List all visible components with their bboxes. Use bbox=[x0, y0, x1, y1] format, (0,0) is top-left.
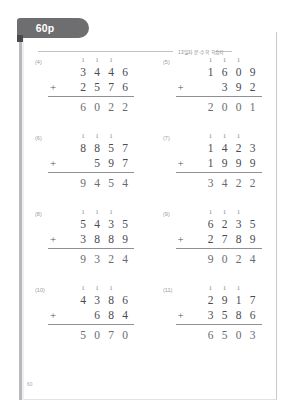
addition-column: 11103446+0257606022 bbox=[48, 56, 134, 115]
problem-cell[interactable]: (10)11104386+0068405070 bbox=[22, 284, 150, 360]
digit: 9 bbox=[218, 293, 232, 308]
answer-row[interactable]: 02001 bbox=[176, 97, 262, 115]
carry-row: 111 bbox=[176, 208, 262, 217]
answer-row[interactable]: 06022 bbox=[48, 97, 134, 115]
digit: 5 bbox=[218, 308, 232, 323]
answer-digit: 0 bbox=[232, 327, 246, 343]
answer-digit: 9 bbox=[76, 175, 90, 191]
addend-row-bottom: +02789 bbox=[176, 232, 262, 247]
carry-spacer bbox=[118, 132, 132, 141]
digit: 9 bbox=[246, 232, 260, 247]
digit-spacer: 0 bbox=[62, 99, 76, 115]
carry-spacer bbox=[62, 208, 76, 217]
running-head: 13일차 문·수학 학습지 bbox=[38, 47, 263, 56]
digit: 9 bbox=[218, 156, 232, 171]
carry-mark: 1 bbox=[90, 284, 104, 293]
answer-row[interactable]: 09024 bbox=[176, 249, 262, 267]
addition-column: 11108857+0059709454 bbox=[48, 132, 134, 191]
digit: 7 bbox=[246, 293, 260, 308]
digit: 3 bbox=[76, 232, 90, 247]
answer-digit: 3 bbox=[90, 251, 104, 267]
digit: 8 bbox=[104, 293, 118, 308]
problem-number: (10) bbox=[35, 287, 45, 293]
plus-operator: + bbox=[50, 80, 56, 95]
running-head-text: 13일차 문·수학 학습지 bbox=[178, 48, 224, 55]
digit-spacer: 0 bbox=[190, 156, 204, 171]
carry-mark: 1 bbox=[104, 208, 118, 217]
answer-row[interactable]: 03422 bbox=[176, 173, 262, 191]
problem-number: (7) bbox=[163, 135, 170, 141]
problem-cell[interactable]: (11)11102917+0358606503 bbox=[150, 284, 278, 360]
carry-spacer bbox=[190, 132, 204, 141]
problem-row: (4)11103446+0257606022(5)11101609+003920… bbox=[22, 56, 277, 132]
answer-row[interactable]: 06503 bbox=[176, 325, 262, 343]
page-tab-label: 60p bbox=[17, 18, 73, 38]
carry-mark: 1 bbox=[90, 132, 104, 141]
carry-row: 111 bbox=[176, 56, 262, 65]
problem-cell[interactable]: (6)11108857+0059709454 bbox=[22, 132, 150, 208]
digit-spacer: 0 bbox=[190, 80, 204, 95]
answer-row[interactable]: 09324 bbox=[48, 249, 134, 267]
carry-spacer bbox=[118, 208, 132, 217]
answer-digit: 1 bbox=[246, 99, 260, 115]
digit: 5 bbox=[118, 217, 132, 232]
problem-cell[interactable]: (8)11105435+0388909324 bbox=[22, 208, 150, 284]
problem-cell[interactable]: (7)11101423+0199903422 bbox=[150, 132, 278, 208]
answer-digit: 3 bbox=[204, 175, 218, 191]
addend-row-top: 01609 bbox=[176, 65, 262, 80]
answer-digit: 6 bbox=[204, 327, 218, 343]
digit: 6 bbox=[118, 293, 132, 308]
digit-spacer: 0 bbox=[62, 308, 76, 323]
digit: 7 bbox=[118, 156, 132, 171]
carry-spacer bbox=[190, 208, 204, 217]
addend-row-top: 05435 bbox=[48, 217, 134, 232]
plus-operator: + bbox=[50, 308, 56, 323]
answer-digit: 4 bbox=[118, 175, 132, 191]
carry-row: 111 bbox=[176, 284, 262, 293]
digit-spacer: 0 bbox=[62, 327, 76, 343]
digit-spacer: 0 bbox=[190, 327, 204, 343]
carry-spacer bbox=[62, 132, 76, 141]
problem-cell[interactable]: (9)11106235+0278909024 bbox=[150, 208, 278, 284]
digit: 9 bbox=[118, 232, 132, 247]
addition-column: 11105435+0388909324 bbox=[48, 208, 134, 267]
addend-row-bottom: +03586 bbox=[176, 308, 262, 323]
digit-spacer: 0 bbox=[62, 293, 76, 308]
page-number: 60 bbox=[27, 381, 32, 387]
addend-row-top: 03446 bbox=[48, 65, 134, 80]
digit-spacer: 0 bbox=[76, 308, 90, 323]
carry-mark: 1 bbox=[232, 132, 246, 141]
answer-digit: 2 bbox=[246, 175, 260, 191]
digit: 2 bbox=[204, 293, 218, 308]
digit: 5 bbox=[90, 80, 104, 95]
plus-operator: + bbox=[178, 80, 184, 95]
carry-row: 111 bbox=[48, 56, 134, 65]
carry-row: 111 bbox=[48, 132, 134, 141]
answer-row[interactable]: 05070 bbox=[48, 325, 134, 343]
problem-row: (10)11104386+0068405070(11)11102917+0358… bbox=[22, 284, 277, 360]
problem-number: (8) bbox=[35, 211, 42, 217]
answer-digit: 2 bbox=[104, 251, 118, 267]
problem-cell[interactable]: (5)11101609+0039202001 bbox=[150, 56, 278, 132]
digit: 2 bbox=[232, 141, 246, 156]
digit: 1 bbox=[204, 65, 218, 80]
carry-row: 111 bbox=[48, 284, 134, 293]
digit: 4 bbox=[76, 293, 90, 308]
plus-operator: + bbox=[178, 308, 184, 323]
carry-mark: 1 bbox=[76, 208, 90, 217]
problem-grid: (4)11103446+0257606022(5)11101609+003920… bbox=[22, 56, 277, 376]
carry-mark: 1 bbox=[104, 284, 118, 293]
digit: 8 bbox=[90, 141, 104, 156]
digit-spacer: 0 bbox=[76, 156, 90, 171]
carry-mark: 1 bbox=[204, 132, 218, 141]
carry-spacer bbox=[246, 208, 260, 217]
problem-cell[interactable]: (4)11103446+0257606022 bbox=[22, 56, 150, 132]
digit: 2 bbox=[204, 232, 218, 247]
answer-row[interactable]: 09454 bbox=[48, 173, 134, 191]
digit-spacer: 0 bbox=[190, 99, 204, 115]
carry-mark: 1 bbox=[76, 56, 90, 65]
addition-column: 11104386+0068405070 bbox=[48, 284, 134, 343]
answer-digit: 9 bbox=[204, 251, 218, 267]
carry-mark: 1 bbox=[76, 132, 90, 141]
page-tab[interactable]: 60p bbox=[17, 18, 89, 38]
